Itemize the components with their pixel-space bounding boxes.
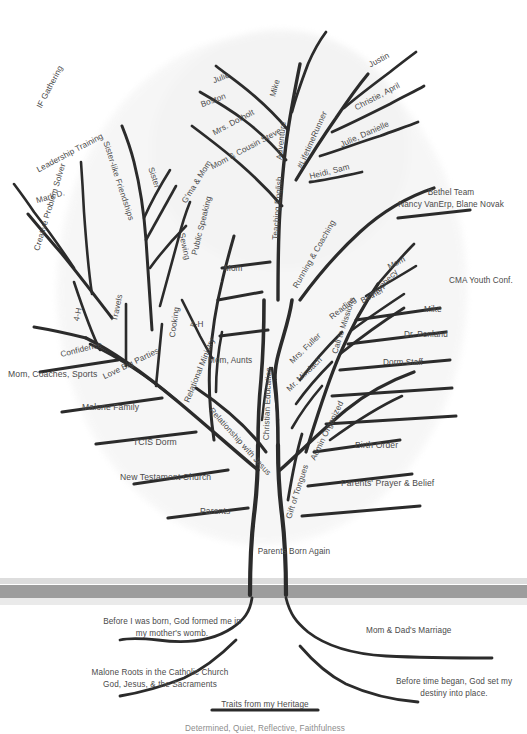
label-tcis-dorm: TCIS Dorm: [133, 437, 177, 448]
label-mom-center: Mom: [224, 264, 243, 274]
root-womb-line1: Before I was born, God formed me in: [103, 617, 241, 626]
life-tree-diagram: IF Gathering Leadership Training Mark D.…: [0, 0, 527, 734]
root-womb-line2: my mother's womb.: [136, 629, 208, 638]
root-label-traits: Determined, Quiet, Reflective, Faithfuln…: [163, 724, 367, 734]
label-4h-center: 4-H: [190, 320, 204, 330]
root-catholic-line1: Malone Roots in the Catholic Church: [92, 668, 229, 677]
label-parents-born-again: Parents Born Again: [238, 546, 350, 558]
label-parents: Parents: [200, 506, 230, 517]
root-label-destiny: Before time began, God set my destiny in…: [380, 676, 527, 701]
root-label-heritage: Traits from my Heritage: [205, 700, 325, 710]
root-label-marriage: Mom & Dad's Marriage: [366, 626, 451, 636]
label-mom-coaches-sports: Mom, Coaches, Sports: [8, 369, 97, 380]
label-cma-youth-conf: CMA Youth Conf.: [449, 276, 513, 286]
root-label-womb: Before I was born, God formed me in my m…: [72, 616, 272, 641]
root-catholic-line2: God, Jesus, & the Sacraments: [103, 680, 217, 689]
label-nancy-vanerp-blane-novak: Nancy VanErp, Blane Novak: [383, 200, 519, 210]
label-parents-prayer-belief: Parents' Prayer & Belief: [341, 478, 434, 489]
label-mom-aunts: Mom, Aunts: [208, 356, 252, 366]
root-destiny-line2: destiny into place.: [420, 689, 487, 698]
label-bethel-team: Bethel Team: [391, 188, 511, 198]
label-new-testament-church: New Testament Church: [120, 472, 211, 483]
root-label-catholic: Malone Roots in the Catholic Church God,…: [50, 667, 270, 692]
label-mike-right: Mike: [424, 305, 442, 315]
label-malone-family: Malone Family: [82, 402, 139, 413]
label-dr-penland: Dr. Penland: [404, 330, 448, 340]
label-birth-order: Birth Order: [355, 440, 398, 451]
root-destiny-line1: Before time began, God set my: [396, 677, 512, 686]
label-dorm-staff: Dorm Staff: [383, 358, 423, 368]
ground-line: [0, 578, 527, 605]
